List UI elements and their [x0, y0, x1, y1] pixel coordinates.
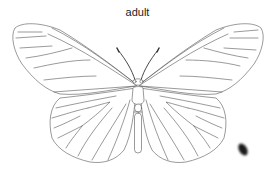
antennae	[117, 48, 159, 80]
hindwing-right	[140, 88, 226, 163]
abdomen	[135, 113, 142, 153]
diagram-canvas: adult	[0, 0, 275, 184]
waist	[135, 104, 142, 112]
hindwing-left	[50, 88, 136, 163]
forewing-left	[13, 24, 136, 95]
forewing-right	[140, 24, 263, 95]
butterfly-drawing	[0, 0, 275, 184]
thorax	[132, 87, 144, 105]
body	[132, 79, 144, 153]
